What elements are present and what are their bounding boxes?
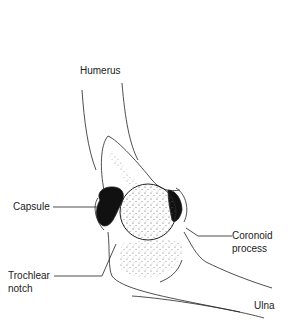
trochlea [120, 184, 176, 240]
label-capsule: Capsule [13, 201, 50, 213]
humerus-distal [101, 136, 180, 191]
label-trochlear-notch-line1: Trochlear [8, 270, 50, 282]
label-coronoid-process-line1: Coronoid [232, 230, 273, 242]
label-humerus: Humerus [80, 65, 121, 77]
stipple-humerus-shaft [108, 150, 140, 190]
label-ulna: Ulna [254, 300, 275, 312]
capsule-left [95, 187, 123, 230]
label-trochlear-notch-line2: notch [8, 283, 32, 295]
elbow-anatomy-figure: Humerus Capsule Coronoid process Trochle… [0, 0, 288, 330]
label-coronoid-process-line2: process [232, 243, 267, 255]
trochlear-leader [54, 244, 116, 276]
stipple-ulna [118, 239, 182, 277]
coronoid-leader [186, 228, 232, 236]
